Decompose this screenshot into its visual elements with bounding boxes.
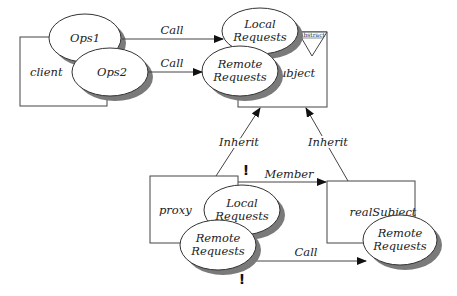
subject-local-line1: Local [243,17,276,31]
proxy-class[interactable]: proxy Local Requests Remote Requests [150,176,285,275]
call-edge-ops2: Call [148,56,202,72]
proxy-remote-line2: Requests [190,244,245,258]
proxy-label: proxy [159,203,192,217]
client-label: client [30,65,63,79]
realsubject-remote-line2: Requests [372,239,427,253]
proxy-remote-line1: Remote [195,231,241,245]
ops1-label: Ops1 [70,31,100,45]
subject-class[interactable]: subject Abstract Local Requests Remote R… [202,8,327,107]
call-label-3: Call [294,245,317,259]
inherit-label-1: Inherit [218,135,259,149]
member-label: Member [263,167,315,181]
exclamation-marker-2: ! [239,271,245,287]
subject-remote-line1: Remote [217,57,263,71]
call-edge-ops1: Call [122,23,223,39]
realsubject-remote-line1: Remote [377,226,423,240]
subject-remote-line2: Requests [212,70,267,84]
call-label-2: Call [160,56,183,70]
inherit-label-2: Inherit [307,135,348,149]
inherit-edge-proxy: Inherit [216,108,260,176]
exclamation-marker-1: ! [243,162,249,178]
proxy-local-line1: Local [225,196,258,210]
client-class[interactable]: client Ops1 Ops2 [20,14,153,106]
member-edge: Member [238,167,326,182]
proxy-pattern-diagram: client Ops1 Ops2 subject Abstract Local … [0,0,457,296]
realsubject-remote-requests-group[interactable]: Remote Requests [363,215,442,270]
call-label-1: Call [160,23,183,37]
ops2-label: Ops2 [97,65,127,79]
subject-local-line2: Requests [232,30,287,44]
